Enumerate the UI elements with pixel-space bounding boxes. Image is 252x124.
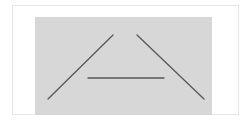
left-diagonal-line xyxy=(48,35,113,99)
right-diagonal-line xyxy=(137,35,204,99)
line-drawing xyxy=(0,0,252,124)
